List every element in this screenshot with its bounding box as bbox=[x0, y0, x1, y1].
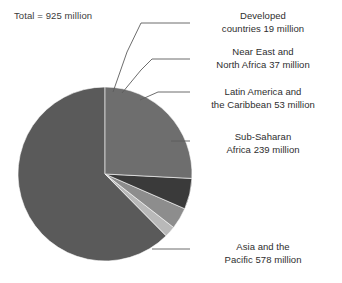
callout-label-latin-america: Latin America and the Caribbean 53 milli… bbox=[193, 86, 333, 111]
callout-label-sub-saharan: Sub-Saharan Africa 239 million bbox=[193, 131, 333, 156]
callout-label-asia: Asia and the Pacific 578 million bbox=[193, 241, 333, 266]
pie-chart-figure: Total = 925 million Developed countries … bbox=[0, 0, 342, 283]
callout-label-near-east: Near East and North Africa 37 million bbox=[193, 46, 333, 71]
pie-slice-sub-saharan bbox=[105, 87, 192, 178]
callout-label-developed: Developed countries 19 million bbox=[193, 10, 333, 35]
pie-slices bbox=[18, 87, 192, 261]
